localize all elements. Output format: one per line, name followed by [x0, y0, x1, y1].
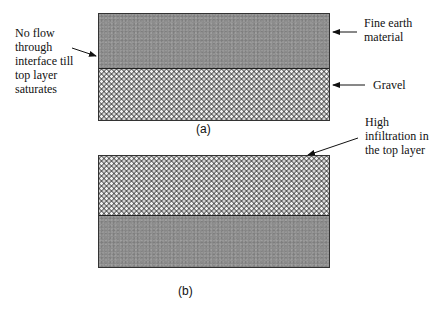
high-infiltration-arrow-icon — [308, 138, 358, 155]
no-flow-arrow-icon — [72, 48, 96, 56]
annotation-arrows — [0, 0, 443, 309]
